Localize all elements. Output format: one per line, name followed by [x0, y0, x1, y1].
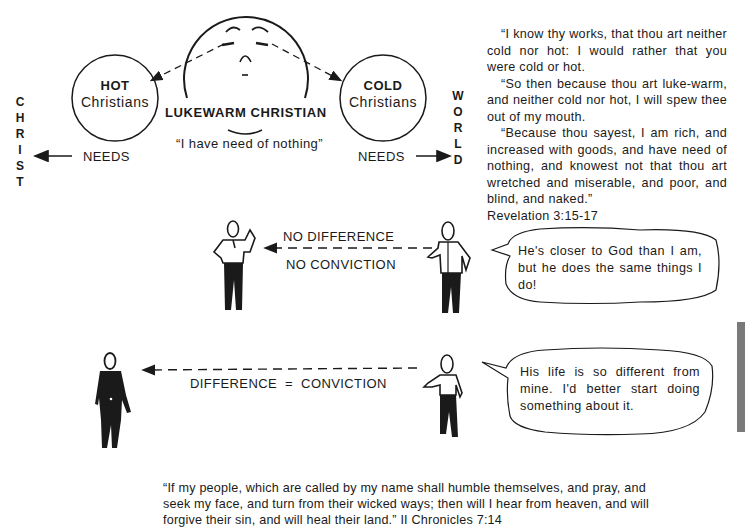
- letter: T: [13, 174, 27, 190]
- no-difference-label: NO DIFFERENCE: [283, 229, 394, 244]
- scripture-paragraph: “I know thy works, that thou art neither…: [487, 26, 727, 76]
- christians-label: Christians: [340, 94, 426, 110]
- person-figure-icon: [214, 221, 255, 310]
- chronicles-scripture: “If my people, which are called by my na…: [163, 480, 743, 528]
- letter: W: [451, 88, 465, 104]
- arrow-to-cold: [272, 44, 340, 80]
- cold-christians-label: COLD Christians: [340, 79, 426, 110]
- arrow-to-hot: [152, 44, 224, 80]
- no-conviction-label: NO CONVICTION: [286, 257, 396, 272]
- cold-label: COLD: [340, 79, 426, 94]
- letter: R: [451, 120, 465, 136]
- christ-vertical-label: C H R I S T: [13, 94, 27, 190]
- christians-label: Christians: [72, 94, 158, 110]
- scripture-paragraph: “So then because thou art luke-warm, and…: [487, 76, 727, 126]
- letter: L: [451, 136, 465, 152]
- person-figure-icon: [95, 353, 131, 448]
- world-vertical-label: W O R L D: [451, 88, 465, 168]
- footer-line: “If my people, which are called by my na…: [163, 480, 743, 496]
- person-figure-icon: [424, 355, 462, 437]
- speech-bubble-2-text: His life is so different from mine. I'd …: [520, 364, 700, 415]
- scripture-reference: Revelation 3:15-17: [487, 208, 727, 225]
- lukewarm-quote: “I have need of nothing”: [176, 136, 323, 151]
- hot-christians-label: HOT Christians: [72, 79, 158, 110]
- page-edge-tab: [737, 322, 745, 432]
- letter: C: [13, 94, 27, 110]
- difference-conviction-label: DIFFERENCE = CONVICTION: [190, 376, 387, 391]
- footer-line: forgive their sin, and will heal their l…: [163, 512, 743, 528]
- revelation-scripture: “I know thy works, that thou art neither…: [487, 26, 727, 224]
- letter: O: [451, 104, 465, 120]
- footer-line: seek my face, and turn from their wicked…: [163, 496, 743, 512]
- lukewarm-christian-title: LUKEWARM CHRISTIAN: [165, 105, 327, 120]
- speech-bubble-1-text: He's closer to God than I am, but he doe…: [518, 243, 702, 294]
- person-figure-icon: [428, 222, 470, 313]
- needs-left-label: NEEDS: [83, 149, 130, 164]
- scripture-paragraph: “Because thou sayest, I am rich, and inc…: [487, 125, 727, 208]
- letter: I: [13, 142, 27, 158]
- hot-label: HOT: [72, 79, 158, 94]
- scene-two-arrow: [144, 368, 417, 370]
- needs-right-label: NEEDS: [358, 149, 405, 164]
- letter: S: [13, 158, 27, 174]
- letter: R: [13, 126, 27, 142]
- letter: H: [13, 110, 27, 126]
- letter: D: [451, 152, 465, 168]
